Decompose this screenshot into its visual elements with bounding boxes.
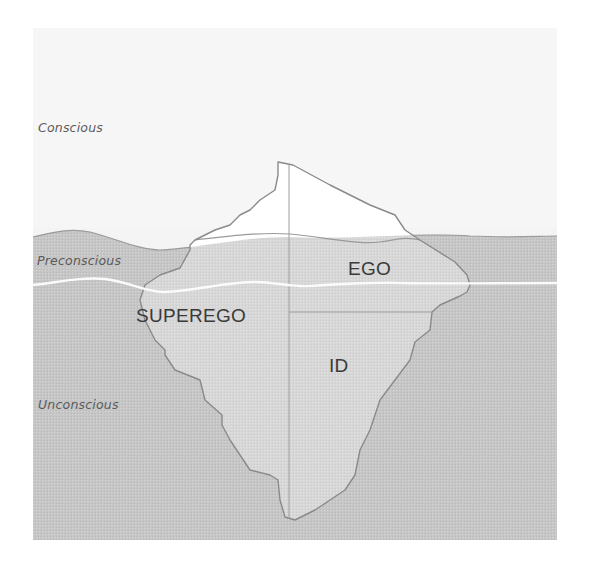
part-label-ego: EGO	[348, 258, 391, 280]
zone-label-preconscious: Preconscious	[37, 253, 121, 268]
part-label-superego: SUPEREGO	[136, 305, 246, 327]
part-label-id: ID	[329, 355, 349, 377]
zone-label-conscious: Conscious	[38, 120, 103, 135]
iceberg-graphic	[0, 0, 590, 565]
iceberg-diagram: Conscious Preconscious Unconscious EGO S…	[0, 0, 590, 565]
zone-label-unconscious: Unconscious	[38, 397, 119, 412]
